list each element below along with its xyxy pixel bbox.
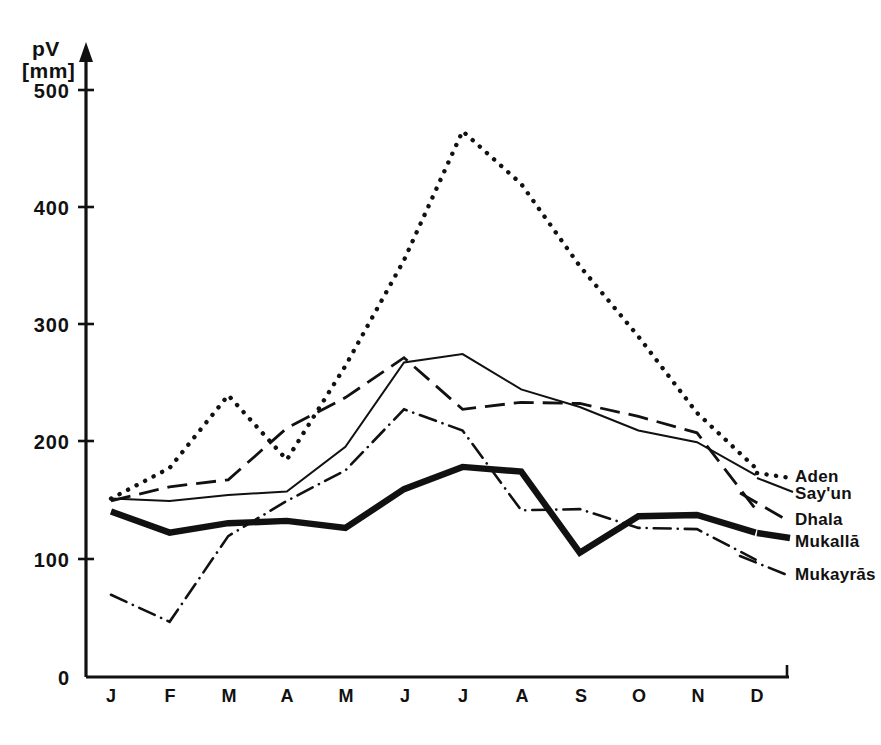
x-tick-label-jan: J [106,686,116,706]
legend-label-mukalla[interactable]: Mukallā [795,532,860,551]
y-axis-arrowhead [79,42,93,62]
y-axis-title: pV [32,37,60,60]
x-tick-label-oct: O [632,686,646,706]
x-tick-label-may: M [339,686,354,706]
x-tick-label-aug: A [516,686,529,706]
series-line-dhala [111,358,756,509]
legend-leader-sayun [757,478,793,492]
x-tick-label-jul: J [458,686,468,706]
legend-label-dhala[interactable]: Dhala [795,510,843,529]
precipitation-line-chart: 500 400 300 200 100 0 pV [mm] J F M A M … [0,0,881,745]
x-tick-label-mar: M [222,686,237,706]
x-tick-label-dec: D [751,686,764,706]
x-tick-label-nov: N [692,686,705,706]
axes-group [79,42,789,677]
series-line-aden [111,131,756,499]
legend-leader-aden [757,473,791,478]
x-tick-label-sep: S [575,686,587,706]
legend: Aden Say'un Dhala Mukallā Mukayrās [795,467,876,584]
y-tick-label-200: 200 [34,431,70,453]
y-tick-label-400: 400 [34,197,70,219]
x-tick-label-apr: A [281,686,294,706]
legend-leader-mukalla [757,533,790,538]
y-tick-label-100: 100 [34,549,70,571]
y-tick-label-0: 0 [58,667,70,689]
y-tick-labels: 500 400 300 200 100 0 [34,80,70,689]
legend-leader-lines [740,473,793,575]
y-tick-label-300: 300 [34,314,70,336]
legend-label-sayun[interactable]: Say'un [795,484,852,503]
x-tick-label-jun: J [400,686,410,706]
y-axis-unit: [mm] [22,59,75,82]
series-line-mukalla [111,467,756,553]
legend-leader-dhala [740,493,785,519]
y-axis-title-group: pV [mm] [22,37,75,82]
y-tick-label-500: 500 [34,80,70,102]
series-group [111,131,756,622]
legend-leader-mukayras [740,556,787,575]
x-tick-labels: J F M A M J J A S O N D [106,686,764,706]
chart-figure: 500 400 300 200 100 0 pV [mm] J F M A M … [0,0,881,745]
x-tick-label-feb: F [165,686,176,706]
legend-label-mukayras[interactable]: Mukayrās [795,565,876,584]
